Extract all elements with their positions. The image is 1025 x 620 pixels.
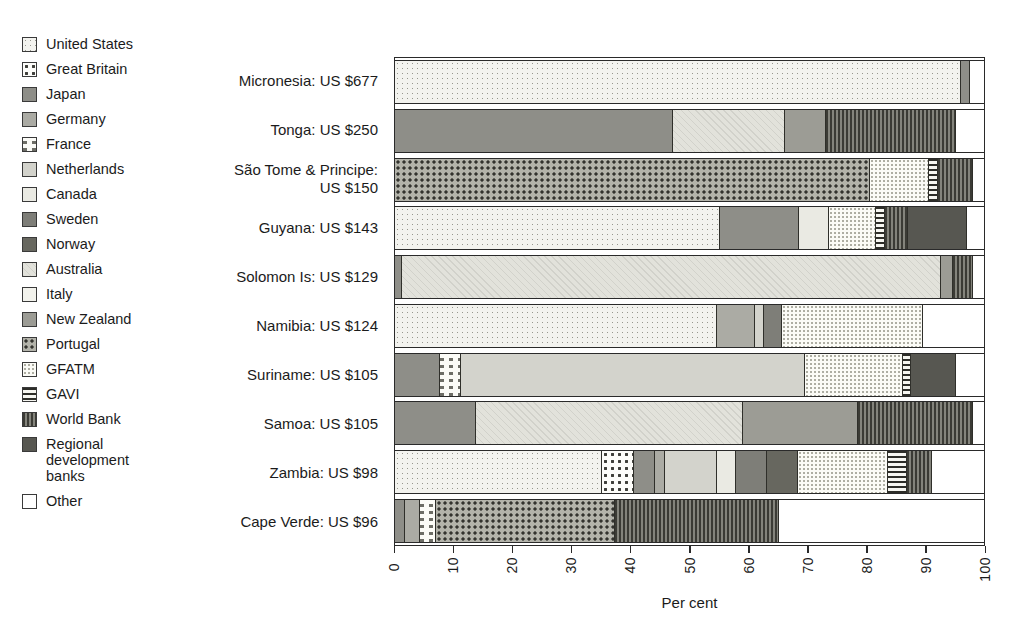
pt-swatch-icon: [22, 337, 37, 352]
segment-wb: [614, 500, 778, 542]
gavi-swatch-icon: [22, 387, 37, 402]
x-tick: [512, 546, 514, 553]
row-label-line: Solomon Is: US $129: [236, 268, 378, 286]
segment-nl: [664, 451, 716, 493]
jp-swatch-icon: [22, 87, 37, 102]
segment-gavi: [902, 354, 911, 396]
ca-swatch-icon: [22, 187, 37, 202]
x-tick: [394, 546, 396, 553]
row-label-line: São Tome & Principe:: [234, 161, 378, 179]
segment-wb: [825, 110, 955, 152]
row-label: Tonga: US $250: [150, 108, 386, 152]
wb-swatch-icon: [22, 412, 37, 427]
x-tick-label-text: 40: [622, 557, 638, 574]
segment-wb: [952, 256, 973, 298]
x-tick-label-text: 50: [682, 557, 698, 574]
bar-row: [395, 450, 984, 494]
segment-us: [395, 207, 719, 249]
bar-row: [395, 109, 984, 153]
legend-label-nz: New Zealand: [46, 311, 131, 327]
x-tick-label: 70: [800, 557, 816, 578]
segment-nz: [940, 256, 952, 298]
au-swatch-icon: [22, 262, 37, 277]
segment-de: [404, 500, 419, 542]
legend-label-au: Australia: [46, 261, 102, 277]
segment-wb: [937, 159, 972, 201]
segment-wb: [884, 207, 908, 249]
x-tick-label: 50: [682, 557, 698, 578]
x-tick-label: 100: [977, 557, 993, 586]
segment-gavi: [875, 207, 884, 249]
segment-other: [778, 500, 984, 542]
row-label-line: Samoa: US $105: [264, 415, 378, 433]
segment-de: [654, 451, 664, 493]
segment-no: [766, 451, 797, 493]
x-tick: [453, 546, 455, 553]
segment-pt: [395, 159, 869, 201]
segment-jp: [395, 110, 672, 152]
legend-label-no: Norway: [46, 236, 95, 252]
rdb-swatch-icon: [22, 437, 37, 452]
row-label-text: São Tome & Principe:US $150: [234, 161, 378, 197]
row-label: Guyana: US $143: [150, 206, 386, 250]
segment-other: [969, 61, 984, 103]
x-tick-label: 60: [741, 557, 757, 578]
row-label-text: Namibia: US $124: [256, 317, 378, 335]
legend-label-de: Germany: [46, 111, 106, 127]
segment-jp: [395, 500, 404, 542]
x-tick-label: 0: [386, 557, 402, 575]
x-tick-label-text: 80: [859, 557, 875, 574]
segment-au: [672, 110, 784, 152]
segment-other: [955, 354, 984, 396]
bar-row: [395, 158, 984, 202]
legend-label-fr: France: [46, 136, 91, 152]
legend-label-other: Other: [46, 493, 82, 509]
x-tick-label-text: 70: [800, 557, 816, 574]
row-labels: Micronesia: US $677Tonga: US $250São Tom…: [150, 57, 386, 546]
x-tick-label: 90: [918, 557, 934, 578]
row-label-line: Cape Verde: US $96: [240, 513, 378, 531]
segment-nz: [742, 402, 857, 444]
x-tick-label-text: 60: [741, 557, 757, 574]
legend-label-pt: Portugal: [46, 336, 100, 352]
legend-label-us: United States: [46, 36, 133, 52]
segment-se: [735, 451, 766, 493]
de-swatch-icon: [22, 112, 37, 127]
x-tick-label-text: 30: [563, 557, 579, 574]
segment-other: [972, 159, 984, 201]
segment-us: [395, 451, 601, 493]
x-tick-label-text: 10: [445, 557, 461, 574]
segment-gb: [601, 451, 633, 493]
row-label: Micronesia: US $677: [150, 59, 386, 103]
legend-label-nl: Netherlands: [46, 161, 124, 177]
bar-row: [395, 206, 984, 250]
legend-label-gavi: GAVI: [46, 386, 80, 402]
bar-row: [395, 401, 984, 445]
row-label-line: Namibia: US $124: [256, 317, 378, 335]
gfatm-swatch-icon: [22, 362, 37, 377]
row-label-text: Zambia: US $98: [270, 464, 378, 482]
row-label-line: US $150: [234, 179, 378, 197]
segment-jp: [960, 61, 969, 103]
row-label: Namibia: US $124: [150, 304, 386, 348]
bar-row: [395, 353, 984, 397]
segment-gfatm: [797, 451, 888, 493]
row-label-line: Guyana: US $143: [259, 219, 378, 237]
segment-au: [401, 256, 940, 298]
row-label: Suriname: US $105: [150, 353, 386, 397]
x-tick-label-text: 0: [386, 563, 402, 571]
bar-row: [395, 255, 984, 299]
x-tick: [985, 546, 987, 553]
other-swatch-icon: [22, 494, 37, 509]
segment-fr: [439, 354, 460, 396]
legend-label-ca: Canada: [46, 186, 97, 202]
gb-swatch-icon: [22, 62, 37, 77]
segment-us: [395, 61, 960, 103]
fr-swatch-icon: [22, 137, 37, 152]
segment-wb: [906, 451, 931, 493]
legend-label-it: Italy: [46, 286, 73, 302]
x-tick: [807, 546, 809, 553]
row-label-text: Solomon Is: US $129: [236, 268, 378, 286]
x-tick-label-text: 20: [504, 557, 520, 574]
legend-label-jp: Japan: [46, 86, 86, 102]
